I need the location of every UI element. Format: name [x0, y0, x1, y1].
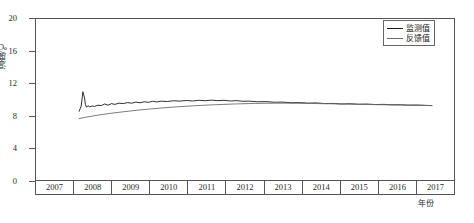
x-axis-year-band: 2007200820092010201120122013201420152016…	[35, 181, 455, 195]
x-tick-label: 2015	[341, 181, 379, 194]
x-tick-label: 2011	[188, 181, 226, 194]
legend-swatch-monitor-icon	[387, 28, 403, 29]
x-tick-label: 2009	[112, 181, 150, 194]
legend: 监测值 反馈值	[383, 20, 435, 46]
x-tick-label: 2014	[303, 181, 341, 194]
x-tick-label: 2008	[74, 181, 112, 194]
y-tick-label: 20	[0, 14, 17, 23]
temperature-line-chart: 温度/℃ 201612840 2007200820092010201120122…	[0, 0, 474, 223]
x-tick-label: 2016	[379, 181, 417, 194]
y-tick-label: 16	[0, 47, 17, 56]
legend-item-feedback: 反馈值	[387, 33, 430, 43]
x-tick-label: 2007	[36, 181, 74, 194]
x-axis-title: 年份	[418, 199, 434, 208]
legend-swatch-feedback-icon	[387, 38, 403, 39]
x-tick-label: 2013	[265, 181, 303, 194]
y-tick-label: 4	[0, 144, 17, 153]
legend-label-feedback: 反馈值	[406, 34, 430, 43]
x-tick-label: 2017	[417, 181, 454, 194]
series-line	[79, 92, 432, 112]
legend-label-monitor: 监测值	[406, 24, 430, 33]
x-tick-label: 2010	[150, 181, 188, 194]
series-line	[79, 103, 432, 118]
y-tick-label: 12	[0, 79, 17, 88]
legend-item-monitor: 监测值	[387, 23, 430, 33]
y-tick-label: 8	[0, 112, 17, 121]
x-tick-label: 2012	[226, 181, 264, 194]
y-tick-label: 0	[0, 177, 17, 186]
